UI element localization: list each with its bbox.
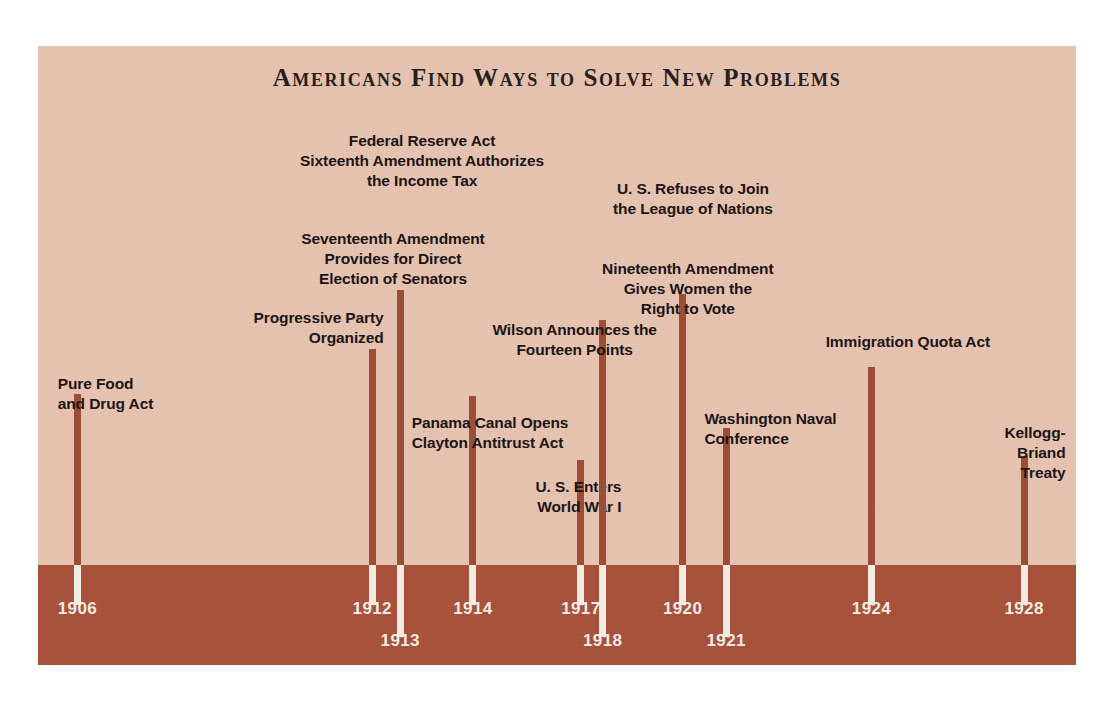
timeline-year-label-1918: 1918: [583, 631, 622, 651]
timeline-year-label-1924: 1924: [852, 599, 891, 619]
timeline-event-caption-1920: U. S. Refuses to Join the League of Nati…: [613, 179, 773, 219]
timeline-event-caption-1928: Kellogg-Briand Treaty: [1004, 423, 1065, 483]
timeline-bar-tip-1913: [397, 565, 404, 637]
timeline-event-caption-1921: Washington Naval Conference: [704, 409, 836, 449]
timeline-event-caption-1917: U. S. Enters World War I: [536, 477, 622, 517]
timeline-bar-1920: [679, 294, 686, 605]
timeline-year-label-1920: 1920: [663, 599, 702, 619]
page-title: Americans Find Ways to Solve New Problem…: [38, 64, 1076, 92]
timeline-year-label-1906: 1906: [58, 599, 97, 619]
timeline-event-caption-1924: Immigration Quota Act: [826, 332, 990, 352]
timeline-event-caption-1918: Wilson Announces the Fourteen Points: [492, 320, 656, 360]
timeline-event-caption-1914: Panama Canal Opens Clayton Antitrust Act: [412, 413, 569, 453]
timeline-year-label-1913: 1913: [381, 631, 420, 651]
timeline-bar-1913: [397, 290, 404, 637]
timeline-year-label-1917: 1917: [561, 599, 600, 619]
timeline-band: [38, 565, 1076, 665]
timeline-event-caption-1906: Pure Food and Drug Act: [58, 374, 154, 414]
timeline-bar-1912: [369, 349, 376, 605]
timeline-year-label-1912: 1912: [353, 599, 392, 619]
timeline-bar-1906: [74, 394, 81, 605]
timeline-bar-1921: [723, 428, 730, 637]
timeline-event-caption-1913: Federal Reserve Act Sixteenth Amendment …: [300, 131, 544, 191]
timeline-event-caption-1912: Progressive Party Organized: [254, 308, 384, 348]
timeline-event-caption-1920-2: Nineteenth Amendment Gives Women the Rig…: [602, 259, 773, 319]
timeline-event-caption-1913-2: Seventeenth Amendment Provides for Direc…: [301, 229, 484, 289]
timeline-year-label-1914: 1914: [453, 599, 492, 619]
timeline-bar-tip-1918: [599, 565, 606, 637]
timeline-bar-1918: [599, 320, 606, 637]
timeline-year-label-1928: 1928: [1004, 599, 1043, 619]
timeline-year-label-1921: 1921: [706, 631, 745, 651]
timeline-bar-1924: [868, 367, 875, 605]
timeline-bar-tip-1921: [723, 565, 730, 637]
timeline-poster: Americans Find Ways to Solve New Problem…: [38, 46, 1076, 665]
